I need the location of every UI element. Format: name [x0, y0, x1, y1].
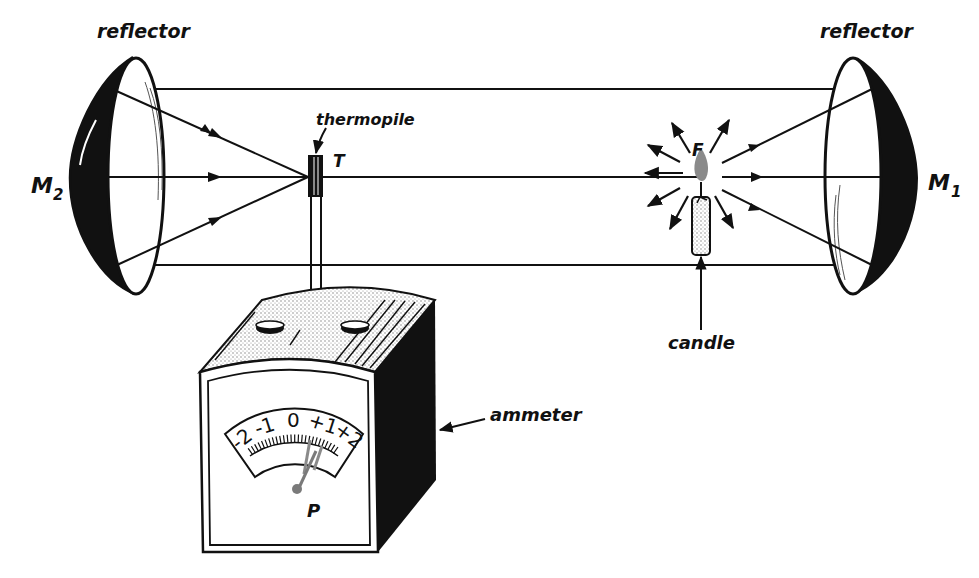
label-mirror-m2-sub: 2: [53, 186, 63, 204]
label-thermopile: thermopile: [316, 110, 415, 129]
diagram-canvas: -2 -1 0 +1 +2 reflector reflector M 2 M …: [0, 0, 979, 578]
label-reflector-right: reflector: [820, 20, 914, 42]
label-ammeter: ammeter: [490, 404, 583, 425]
candle: [692, 148, 710, 330]
reflector-left: [70, 57, 164, 294]
label-candle: candle: [668, 332, 735, 353]
reflector-right: [825, 57, 918, 294]
label-thermopile-t: T: [333, 151, 346, 171]
label-pointer-p: P: [307, 500, 320, 521]
label-flame-f: F: [692, 140, 704, 160]
label-mirror-m2: M: [31, 173, 53, 198]
label-mirror-m1: M: [928, 170, 950, 195]
dial-mark-zero: 0: [287, 408, 300, 432]
radiation-arrows: [645, 120, 733, 229]
label-reflector-left: reflector: [97, 20, 191, 42]
label-mirror-m1-sub: 1: [951, 183, 961, 201]
